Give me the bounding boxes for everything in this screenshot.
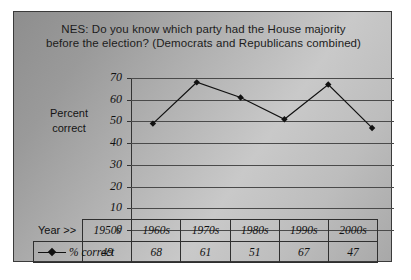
table-cell: 67 [279, 241, 328, 263]
y-tick-label: 30 [62, 157, 122, 172]
table-cell: 61 [181, 241, 230, 263]
table-cell: 68 [132, 241, 181, 263]
series-line-percent-correct [131, 78, 394, 231]
table-row: % correct 49 68 61 51 67 47 [34, 241, 378, 263]
x-axis-label: Year >> [34, 220, 83, 242]
table-header-cell: 1990s [279, 220, 328, 242]
chart-title-line-1: NES: Do you know which party had the Hou… [14, 22, 393, 36]
series-markers [150, 79, 376, 131]
chart-title-line-2: before the election? (Democrats and Repu… [14, 36, 393, 50]
table-cell: 47 [328, 241, 377, 263]
plot-wrapper: 706050403020100 [118, 67, 386, 239]
data-point-marker [237, 94, 243, 100]
legend-diamond-line-icon [38, 248, 66, 257]
y-tick-label: 50 [62, 113, 122, 128]
table-header-cell: 1960s [132, 220, 181, 242]
y-tick-label: 40 [62, 135, 122, 150]
series-polyline [153, 82, 372, 128]
table-header-cell: 1980s [230, 220, 279, 242]
chart-title: NES: Do you know which party had the Hou… [14, 22, 393, 50]
table-cell: 51 [230, 241, 279, 263]
chart-frame: NES: Do you know which party had the Hou… [13, 11, 392, 262]
y-tick-label: 70 [62, 70, 122, 85]
table-row-header: Year >> 1950s 1960s 1970s 1980s 1990s 20… [34, 220, 378, 242]
data-table: Year >> 1950s 1960s 1970s 1980s 1990s 20… [33, 219, 378, 263]
plot-area [131, 78, 394, 230]
y-tick-label: 10 [62, 200, 122, 215]
legend-entry-percent-correct: % correct [34, 241, 83, 263]
y-tick-label: 60 [62, 92, 122, 107]
table-header-cell: 2000s [328, 220, 377, 242]
y-tick-label: 20 [62, 179, 122, 194]
table-header-cell: 1970s [181, 220, 230, 242]
table-header-cell: 1950s [83, 220, 132, 242]
